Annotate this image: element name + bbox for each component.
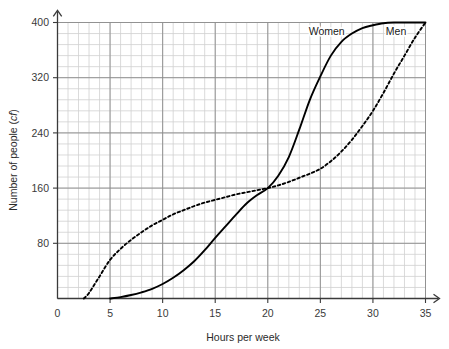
y-tick-label: 160 [31,182,49,194]
x-tick-label: 30 [367,307,379,319]
y-tick-label: 80 [37,237,49,249]
y-tick-label: 320 [31,71,49,83]
y-axis-title-main: Number of people ( [7,120,19,210]
y-axis-title-close: ) [7,109,19,113]
x-tick-label: 20 [262,307,274,319]
x-axis-title: Hours per week [206,331,280,343]
x-tick-label: 5 [107,307,113,319]
x-tick-label: 0 [55,307,61,319]
x-tick-label: 35 [420,307,432,319]
chart-background [0,0,449,349]
x-tick-label: 15 [209,307,221,319]
series-label-women: Women [309,25,345,37]
x-tick-label: 25 [315,307,327,319]
series-label-men: Men [386,25,407,37]
y-tick-label: 400 [31,16,49,28]
y-axis-title-group: Number of people (cf) [7,109,19,211]
chart-canvas: 0510152025303580160240320400 WomenWomenM… [0,0,449,349]
x-tick-label: 10 [157,307,169,319]
y-axis-title: Number of people (cf) [7,109,19,211]
y-tick-label: 240 [31,127,49,139]
cumulative-frequency-chart: 0510152025303580160240320400 WomenWomenM… [0,0,449,349]
